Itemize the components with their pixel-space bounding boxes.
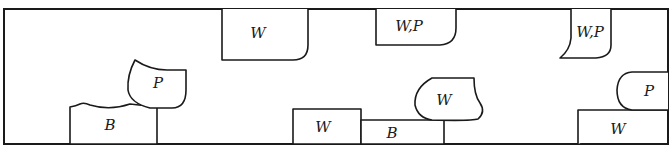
shape-label: B	[385, 124, 397, 142]
shape-top-wp-2: W,P	[560, 9, 611, 58]
shape-label: P	[643, 82, 655, 100]
shape-top-wp-1: W,P	[376, 9, 456, 45]
shape-label: W	[436, 91, 453, 109]
shape-label: W,P	[576, 23, 605, 41]
shape-bottom-w-1: W	[293, 109, 361, 144]
shape-floating-w-1: W	[415, 78, 483, 120]
shape-right-p-1: P	[617, 72, 668, 110]
shape-bottom-b-1: B	[70, 103, 157, 144]
shape-label: W	[610, 120, 627, 138]
shape-floating-p-1: P	[128, 60, 186, 108]
shape-bottom-b-2: B	[361, 120, 444, 144]
shape-label: B	[103, 116, 115, 134]
shape-bottom-w-2: W	[578, 110, 668, 144]
shape-label: W	[250, 24, 267, 42]
shape-top-w-1: W	[222, 9, 308, 60]
shape-label: W,P	[395, 17, 424, 35]
diagram-canvas: W W,P W,P B P W B W W P	[0, 0, 670, 153]
shape-label: W	[315, 118, 332, 136]
shape-label: P	[152, 74, 164, 92]
